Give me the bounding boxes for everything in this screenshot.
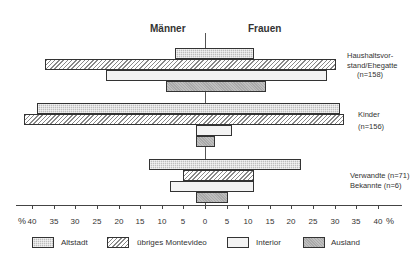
legend-swatch-ausland bbox=[303, 237, 325, 248]
x-tick bbox=[313, 205, 314, 209]
x-tick-label: 35 bbox=[352, 217, 361, 226]
legend-label-altstadt: Altstadt bbox=[61, 238, 88, 247]
bar-altstadt-group-1 bbox=[175, 48, 254, 59]
x-tick-label: 40 bbox=[374, 217, 383, 226]
x-tick bbox=[162, 205, 163, 209]
category-label-verwandte-bekannte: Verwandte (n=71) Bekannte (n=6) bbox=[350, 171, 409, 190]
x-tick-label: 30 bbox=[71, 217, 80, 226]
x-tick bbox=[270, 205, 271, 209]
bar-altstadt-group-2 bbox=[37, 103, 340, 114]
x-tick bbox=[183, 205, 184, 209]
x-tick-label: 20 bbox=[115, 217, 124, 226]
category-label-haushalt: Haushaltsvor- stand/Ehegatte (n=158) bbox=[347, 51, 397, 80]
bar-montevideo-group-1 bbox=[45, 59, 336, 70]
label-line: Verwandte (n=71) bbox=[350, 171, 409, 181]
bar-interior-group-2 bbox=[196, 125, 232, 136]
label-line: Bekannte (n=6) bbox=[350, 181, 409, 191]
bar-altstadt-group-3 bbox=[149, 159, 301, 170]
x-tick-label: 10 bbox=[158, 217, 167, 226]
bar-ausland-group-3 bbox=[196, 192, 228, 203]
percent-unit-right: % bbox=[386, 216, 394, 226]
percent-unit-left: % bbox=[18, 216, 26, 226]
x-tick bbox=[356, 205, 357, 209]
legend-label-interior: Interior bbox=[256, 238, 281, 247]
bar-montevideo-group-2 bbox=[24, 114, 344, 125]
label-line: Kinder bbox=[358, 109, 384, 121]
x-tick-label: 5 bbox=[225, 217, 229, 226]
bar-montevideo-group-3 bbox=[183, 170, 254, 181]
left-side-title-maenner: Männer bbox=[150, 23, 186, 34]
x-tick-label: 40 bbox=[28, 217, 37, 226]
x-tick bbox=[54, 205, 55, 209]
label-line: (n=156) bbox=[358, 121, 384, 133]
x-tick-label: 10 bbox=[244, 217, 253, 226]
x-tick-label: 0 bbox=[203, 217, 207, 226]
legend-swatch-altstadt bbox=[32, 237, 54, 248]
x-tick-label: 20 bbox=[287, 217, 296, 226]
legend-swatch-interior bbox=[227, 237, 249, 248]
x-tick bbox=[227, 205, 228, 209]
x-tick bbox=[248, 205, 249, 209]
legend-label-montevideo: übriges Montevideo bbox=[137, 238, 207, 247]
right-side-title-frauen: Frauen bbox=[248, 23, 281, 34]
label-line: stand/Ehegatte bbox=[347, 61, 397, 71]
legend-swatch-montevideo bbox=[107, 237, 129, 248]
x-tick-label: 25 bbox=[309, 217, 318, 226]
x-tick bbox=[205, 205, 206, 209]
x-tick-label: 15 bbox=[136, 217, 145, 226]
x-tick bbox=[97, 205, 98, 209]
bar-interior-group-1 bbox=[106, 70, 327, 81]
x-tick bbox=[335, 205, 336, 209]
label-line: (n=158) bbox=[347, 70, 397, 80]
x-tick-label: 15 bbox=[266, 217, 275, 226]
bar-ausland-group-2 bbox=[196, 136, 215, 147]
x-tick-label: 30 bbox=[331, 217, 340, 226]
x-tick bbox=[291, 205, 292, 209]
legend-label-ausland: Ausland bbox=[331, 238, 360, 247]
x-tick-label: 5 bbox=[181, 217, 185, 226]
label-line: Haushaltsvor- bbox=[347, 51, 397, 61]
x-tick-label: 35 bbox=[50, 217, 59, 226]
x-tick bbox=[75, 205, 76, 209]
x-tick bbox=[119, 205, 120, 209]
x-tick bbox=[32, 205, 33, 209]
x-tick-label: 25 bbox=[93, 217, 102, 226]
bar-interior-group-3 bbox=[170, 181, 254, 192]
x-axis-baseline bbox=[16, 205, 402, 206]
x-tick bbox=[378, 205, 379, 209]
bar-ausland-group-1 bbox=[166, 81, 266, 92]
category-label-kinder: Kinder (n=156) bbox=[358, 109, 384, 133]
x-tick bbox=[140, 205, 141, 209]
